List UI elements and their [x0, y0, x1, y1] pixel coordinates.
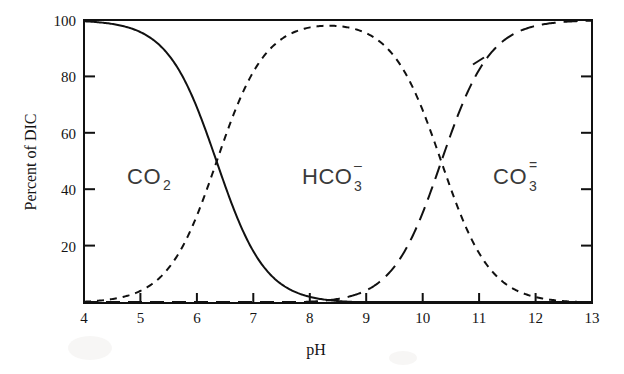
- paper-smudge: [68, 336, 112, 360]
- series-label-co3-subscript: 3: [529, 178, 537, 194]
- series-curve-co2: [84, 21, 592, 302]
- y-tick-label-60: 60: [61, 126, 76, 142]
- x-tick-label-13: 13: [585, 310, 600, 326]
- x-tick-label-7: 7: [250, 310, 258, 326]
- series-label-co2-formula: CO: [127, 164, 161, 189]
- y-axis-ticks-right: [581, 76, 592, 245]
- series-label-co2-subscript: 2: [163, 177, 171, 193]
- series-label-hco3-charge: –: [354, 157, 362, 173]
- y-axis-title: Percent of DIC: [22, 114, 39, 211]
- y-tick-label-20: 20: [61, 239, 76, 255]
- series-label-hco3-formula: HCO: [302, 164, 352, 189]
- x-axis-title: pH: [306, 341, 326, 359]
- x-tick-label-12: 12: [528, 310, 543, 326]
- x-tick-label-5: 5: [137, 310, 145, 326]
- chart-canvas: 100 80 60 40 20 4 5 6 7 8 9 10 11 12 13 …: [0, 0, 624, 374]
- series-label-co3-formula: CO: [493, 164, 527, 189]
- y-axis-ticks: [84, 76, 95, 245]
- paper-smudge: [389, 351, 417, 365]
- x-tick-label-10: 10: [415, 310, 430, 326]
- x-tick-label-11: 11: [472, 310, 486, 326]
- series-label-hco3: HCO 3 –: [302, 157, 362, 194]
- y-tick-label-40: 40: [61, 182, 76, 198]
- plot-frame: [84, 20, 592, 303]
- x-tick-label-6: 6: [193, 310, 201, 326]
- series-label-co2: CO 2: [127, 164, 171, 193]
- series-curve-co3: [84, 21, 592, 302]
- x-tick-label-8: 8: [306, 310, 314, 326]
- x-tick-label-4: 4: [80, 310, 88, 326]
- y-tick-label-100: 100: [54, 13, 77, 29]
- y-tick-label-80: 80: [61, 69, 76, 85]
- figure-carbonate-speciation: 100 80 60 40 20 4 5 6 7 8 9 10 11 12 13 …: [0, 0, 624, 374]
- series-label-hco3-subscript: 3: [354, 178, 362, 194]
- series-label-co3-charge: =: [529, 157, 537, 173]
- series-curve-co3-kink: [473, 58, 484, 65]
- x-tick-label-9: 9: [362, 310, 370, 326]
- series-label-co3: CO 3 =: [493, 157, 537, 194]
